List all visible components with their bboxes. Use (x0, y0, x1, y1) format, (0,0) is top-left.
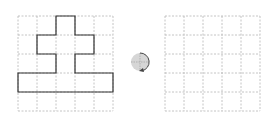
rotate-clockwise-icon (131, 53, 149, 72)
right-grid (165, 16, 260, 111)
left-grid (18, 16, 113, 111)
diagram-canvas (0, 0, 269, 118)
